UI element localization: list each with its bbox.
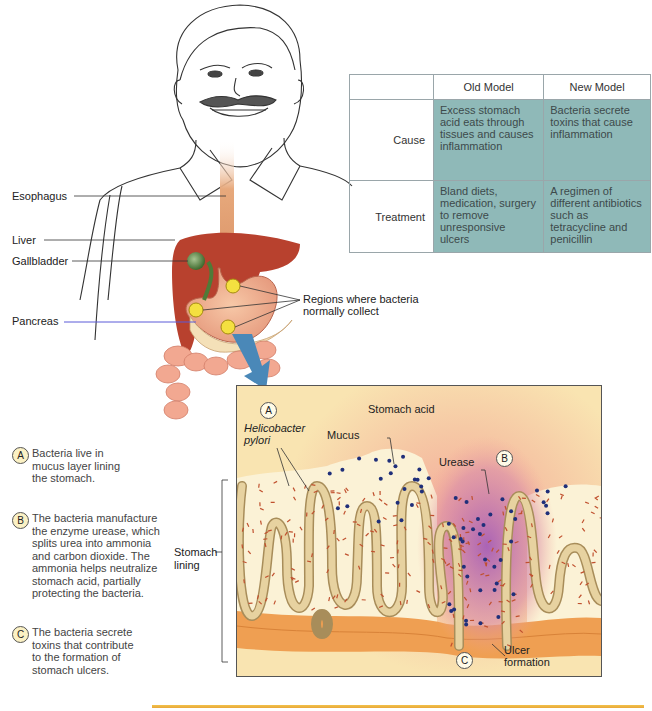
bacterium	[244, 579, 245, 583]
urease-dot	[509, 539, 513, 543]
bacterium	[485, 575, 489, 576]
urease-dot	[427, 476, 431, 480]
table-row: Cause Excess stomach acid eats through t…	[350, 100, 651, 181]
bacteria-region-2	[189, 303, 203, 317]
row-label-treatment: Treatment	[350, 181, 434, 253]
note-a-marker: A	[12, 447, 29, 464]
urease-dot	[461, 526, 465, 530]
urease-dot	[416, 478, 420, 482]
bacterium	[397, 540, 398, 544]
mucus-label: Mucus	[327, 429, 359, 441]
urease-dot	[546, 490, 550, 494]
urease-dot	[478, 588, 482, 592]
bacteria-region-3	[221, 320, 235, 334]
bacterium	[472, 496, 473, 500]
stomach-lining-label-line2: lining	[174, 559, 217, 572]
bacterium	[465, 532, 469, 533]
urease-dot	[328, 472, 332, 476]
urease-dot	[478, 532, 482, 536]
ulcer-formation-label-line2: formation	[504, 656, 550, 668]
urease-dot	[452, 535, 456, 539]
bacterium	[393, 525, 397, 526]
cause-new-model: Bacteria secrete toxins that cause infla…	[544, 100, 651, 181]
urease-dot	[417, 467, 421, 471]
urease-dot	[471, 527, 475, 531]
bacterium	[312, 553, 313, 557]
urease-dot	[454, 496, 458, 500]
urease-dot	[544, 504, 548, 508]
urease-dot	[542, 500, 546, 504]
stomach-acid-label: Stomach acid	[368, 403, 435, 415]
urease-dot	[459, 537, 463, 541]
gallbladder-label: Gallbladder	[12, 255, 68, 267]
urease-dot	[340, 468, 344, 472]
treatment-new-model: A regimen of different antibiotics such …	[544, 181, 651, 253]
urease-dot	[535, 488, 539, 492]
bacterium	[263, 539, 267, 540]
urease-dot	[513, 517, 517, 521]
header-new-model: New Model	[544, 75, 651, 100]
urease-dot	[402, 487, 406, 491]
helicobacter-label-line1: Helicobacter	[244, 422, 305, 434]
urease-dot	[419, 484, 423, 488]
urease-dot	[377, 519, 381, 523]
bacterium	[407, 600, 408, 604]
urease-dot	[396, 501, 400, 505]
ulcer-formation-label-line1: Ulcer	[504, 644, 550, 656]
urease-dot	[336, 506, 340, 510]
bacterium	[329, 597, 330, 601]
bacterium	[443, 523, 444, 527]
esophagus-label: Esophagus	[12, 190, 67, 202]
bacterium	[500, 585, 504, 586]
cause-old-model: Excess stomach acid eats through tissues…	[434, 100, 544, 181]
panel-marker-c: C	[456, 652, 473, 669]
bacterium	[470, 588, 471, 592]
bacteria-regions-label-line1: Regions where bacteria	[303, 293, 419, 305]
model-comparison-table: Old Model New Model Cause Excess stomach…	[349, 74, 651, 253]
bacterium	[242, 544, 243, 548]
bacterium	[400, 601, 401, 605]
urease-dot	[345, 504, 349, 508]
stomach-lining-label-line1: Stomach	[174, 546, 217, 559]
table-header-row: Old Model New Model	[350, 75, 651, 100]
urease-dot	[488, 513, 492, 517]
bacterium	[337, 493, 341, 494]
urease-dot	[379, 477, 383, 481]
ulcer-formation-label: Ulcer formation	[504, 644, 550, 668]
urease-dot	[447, 522, 451, 526]
bacterium	[503, 511, 504, 515]
bacteria-region-1	[226, 279, 240, 293]
urease-dot	[399, 518, 403, 522]
urease-label: Urease	[439, 456, 474, 468]
urease-dot	[401, 455, 405, 459]
urease-dot	[493, 588, 497, 592]
urease-dot	[462, 565, 466, 569]
bacterium	[261, 521, 262, 525]
urease-dot	[464, 619, 468, 623]
note-c-marker: C	[12, 626, 29, 643]
helicobacter-label: Helicobacter pylori	[244, 422, 305, 446]
panel-marker-a: A	[260, 402, 277, 419]
helicobacter-label-line2: pylori	[244, 434, 305, 446]
urease-dot	[483, 557, 487, 561]
urease-dot	[393, 464, 397, 468]
urease-dot	[374, 458, 378, 462]
note-a-text: Bacteria live in mucus layer lining the …	[32, 447, 132, 485]
urease-dot	[482, 523, 486, 527]
pancreas-label: Pancreas	[12, 315, 58, 327]
note-c-text: The bacteria secrete toxins that contrib…	[32, 626, 142, 676]
bacterium	[398, 564, 399, 568]
urease-dot	[465, 575, 469, 579]
urease-dot	[357, 456, 361, 460]
note-b-text: The bacteria manufacture the enzyme urea…	[32, 512, 162, 600]
stomach-lining-detail-panel: A Stomach acid Helicobacter pylori Mucus…	[236, 385, 602, 677]
urease-dot	[509, 509, 513, 513]
panel-marker-b: B	[496, 450, 513, 467]
urease-dot	[492, 565, 496, 569]
urease-dot	[500, 497, 504, 501]
urease-dot	[495, 582, 499, 586]
liver-label: Liver	[12, 234, 36, 246]
bacterium	[371, 551, 375, 552]
treatment-old-model: Bland diets, medication, surgery to remo…	[434, 181, 544, 253]
bacterium	[311, 485, 315, 486]
